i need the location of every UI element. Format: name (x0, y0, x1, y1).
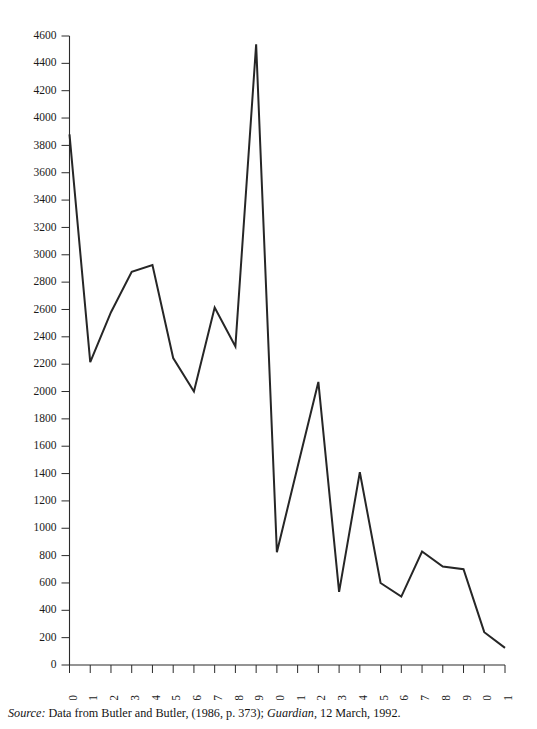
y-tick-label: 2000 (34, 385, 57, 397)
y-tick-label: 1000 (34, 521, 57, 533)
source-text-before: Data from Butler and Butler, (1986, p. 3… (45, 706, 267, 720)
y-tick-label: 2600 (34, 303, 57, 315)
x-tick-label: 1975 (170, 695, 182, 700)
line-chart: 0200400600800100012001400160018002000220… (0, 0, 537, 700)
y-tick-label: 1800 (34, 412, 57, 424)
x-tick-label: 1974 (150, 695, 162, 700)
y-tick-label: 2400 (34, 330, 57, 342)
x-tick-label: 1977 (212, 695, 224, 700)
x-tick-label: 1978 (233, 695, 245, 700)
source-label: Source: (8, 706, 45, 720)
x-tick-label: 1972 (108, 695, 120, 700)
y-tick-label: 3400 (34, 193, 57, 205)
figure-container: 0200400600800100012001400160018002000220… (0, 0, 537, 729)
source-caption: Source: Data from Butler and Butler, (19… (8, 706, 528, 721)
x-tick-label: 1990 (481, 695, 493, 700)
y-tick-label: 200 (39, 631, 57, 643)
y-tick-label: 4000 (34, 111, 57, 123)
y-axis: 0200400600800100012001400160018002000220… (34, 29, 70, 670)
x-tick-label: 1971 (87, 695, 99, 700)
y-tick-label: 2200 (34, 357, 57, 369)
y-tick-label: 1600 (34, 439, 57, 451)
data-series (70, 44, 506, 648)
y-tick-label: 0 (51, 658, 57, 670)
x-tick-label: 1980 (274, 695, 286, 700)
y-tick-label: 600 (39, 576, 57, 588)
y-tick-label: 3200 (34, 221, 57, 233)
y-tick-label: 3600 (34, 166, 57, 178)
y-tick-label: 4200 (34, 84, 57, 96)
x-tick-label: 1970 (67, 695, 79, 700)
x-tick-label: 1979 (253, 695, 265, 700)
x-tick-label: 1982 (315, 695, 327, 700)
y-tick-label: 800 (39, 549, 57, 561)
y-tick-label: 400 (39, 603, 57, 615)
y-tick-label: 4400 (34, 56, 57, 68)
x-tick-label: 1988 (440, 695, 452, 700)
x-tick-label: 1991 (502, 695, 514, 700)
x-tick-label: 1989 (461, 695, 473, 700)
y-tick-label: 3000 (34, 248, 57, 260)
x-tick-label: 1973 (129, 695, 141, 700)
y-tick-label: 1400 (34, 467, 57, 479)
x-tick-label: 1986 (398, 695, 410, 700)
x-tick-label: 1981 (295, 695, 307, 700)
x-tick-label: 1987 (419, 695, 431, 700)
data-line (70, 44, 506, 648)
y-tick-label: 4600 (34, 29, 57, 41)
x-tick-label: 1984 (357, 695, 369, 700)
y-tick-label: 3800 (34, 139, 57, 151)
x-tick-label: 1985 (378, 695, 390, 700)
y-tick-label: 1200 (34, 494, 57, 506)
x-tick-label: 1976 (191, 695, 203, 700)
x-axis: 1970197119721973197419751976197719781979… (67, 665, 515, 700)
source-text-after: , 12 March, 1992. (314, 706, 401, 720)
y-tick-label: 2800 (34, 275, 57, 287)
x-tick-label: 1983 (336, 695, 348, 700)
source-publication: Guardian (267, 706, 314, 720)
